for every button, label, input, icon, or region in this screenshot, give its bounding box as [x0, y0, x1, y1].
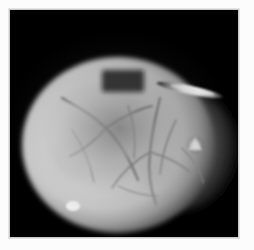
- specimen-canvas: [10, 10, 238, 237]
- figure-root: [0, 0, 254, 250]
- apex-notch: [102, 70, 144, 92]
- right-edge-highlight: [186, 136, 204, 154]
- figure-caption: [10, 239, 238, 250]
- lower-edge-highlight: [66, 201, 80, 211]
- dark-imaging-field: [10, 10, 238, 237]
- core-highlight: [52, 96, 140, 168]
